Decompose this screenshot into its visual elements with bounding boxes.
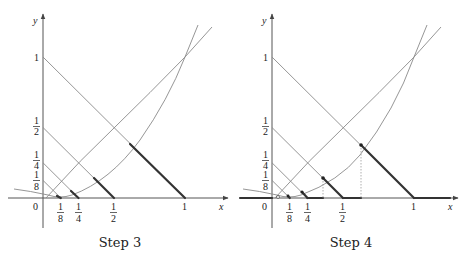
svg-text:8: 8 (58, 213, 63, 224)
svg-text:1: 1 (263, 115, 268, 126)
svg-text:1: 1 (58, 201, 63, 212)
y-tick-eighth: 1 8 (262, 169, 269, 192)
bold-segment-half (323, 178, 343, 198)
bold-segment-1 (361, 145, 414, 198)
x-tick-eighth: 1 8 (286, 201, 293, 224)
svg-text:2: 2 (263, 126, 268, 137)
svg-text:1: 1 (111, 201, 116, 212)
y-tick-half: 1 2 (262, 115, 269, 137)
svg-text:2: 2 (340, 213, 345, 224)
x-tick-1: 1 (182, 201, 187, 212)
svg-text:1: 1 (340, 201, 345, 212)
svg-text:4: 4 (305, 213, 310, 224)
origin-label: 0 (262, 201, 267, 212)
y-tick-quarter: 1 4 (262, 149, 269, 171)
diagram-canvas: y x 0 1 1 2 1 4 1 8 1 8 1 4 (0, 0, 474, 260)
svg-text:1: 1 (76, 201, 81, 212)
svg-text:4: 4 (76, 213, 81, 224)
hollow-point (277, 196, 280, 199)
panel-step-3: y x 0 1 1 2 1 4 1 8 1 8 1 4 (8, 14, 228, 250)
y-tick-1: 1 (263, 52, 268, 63)
y-tick-eighth: 1 8 (33, 169, 40, 192)
x-tick-half: 1 2 (339, 201, 346, 224)
y-axis-label: y (261, 15, 267, 26)
y-tick-1: 1 (34, 52, 39, 63)
y-axis-label: y (32, 15, 38, 26)
svg-text:8: 8 (263, 181, 268, 192)
svg-text:1: 1 (34, 149, 39, 160)
caption-step-3: Step 3 (99, 235, 142, 250)
svg-text:8: 8 (34, 181, 39, 192)
svg-text:1: 1 (287, 201, 292, 212)
x-axis-label: x (218, 201, 224, 212)
steep-parabola-curve (243, 25, 427, 197)
panel-step-4: y x 0 1 1 2 1 4 1 8 1 8 1 4 1 (240, 14, 458, 250)
intersection-point-1 (359, 143, 363, 147)
intersection-point-eighth (287, 195, 290, 198)
svg-text:8: 8 (287, 213, 292, 224)
svg-text:1: 1 (34, 169, 39, 180)
origin-label: 0 (33, 201, 38, 212)
svg-text:1: 1 (263, 169, 268, 180)
x-axis-label: x (447, 201, 453, 212)
svg-text:1: 1 (305, 201, 310, 212)
steep-parabola-curve (14, 25, 198, 197)
svg-text:1: 1 (263, 149, 268, 160)
svg-text:1: 1 (34, 115, 39, 126)
svg-text:2: 2 (34, 126, 39, 137)
bold-segment-1 (130, 144, 185, 198)
x-tick-quarter: 1 4 (304, 201, 311, 224)
y-tick-half: 1 2 (33, 115, 40, 137)
svg-text:2: 2 (111, 213, 116, 224)
bold-segment-half (94, 178, 114, 198)
x-tick-eighth: 1 8 (57, 201, 64, 224)
intersection-point-half (321, 176, 325, 180)
caption-step-4: Step 4 (330, 235, 373, 250)
intersection-point-quarter (300, 190, 303, 193)
x-tick-quarter: 1 4 (75, 201, 82, 224)
x-tick-1: 1 (411, 201, 416, 212)
y-tick-quarter: 1 4 (33, 149, 40, 171)
x-tick-half: 1 2 (110, 201, 117, 224)
